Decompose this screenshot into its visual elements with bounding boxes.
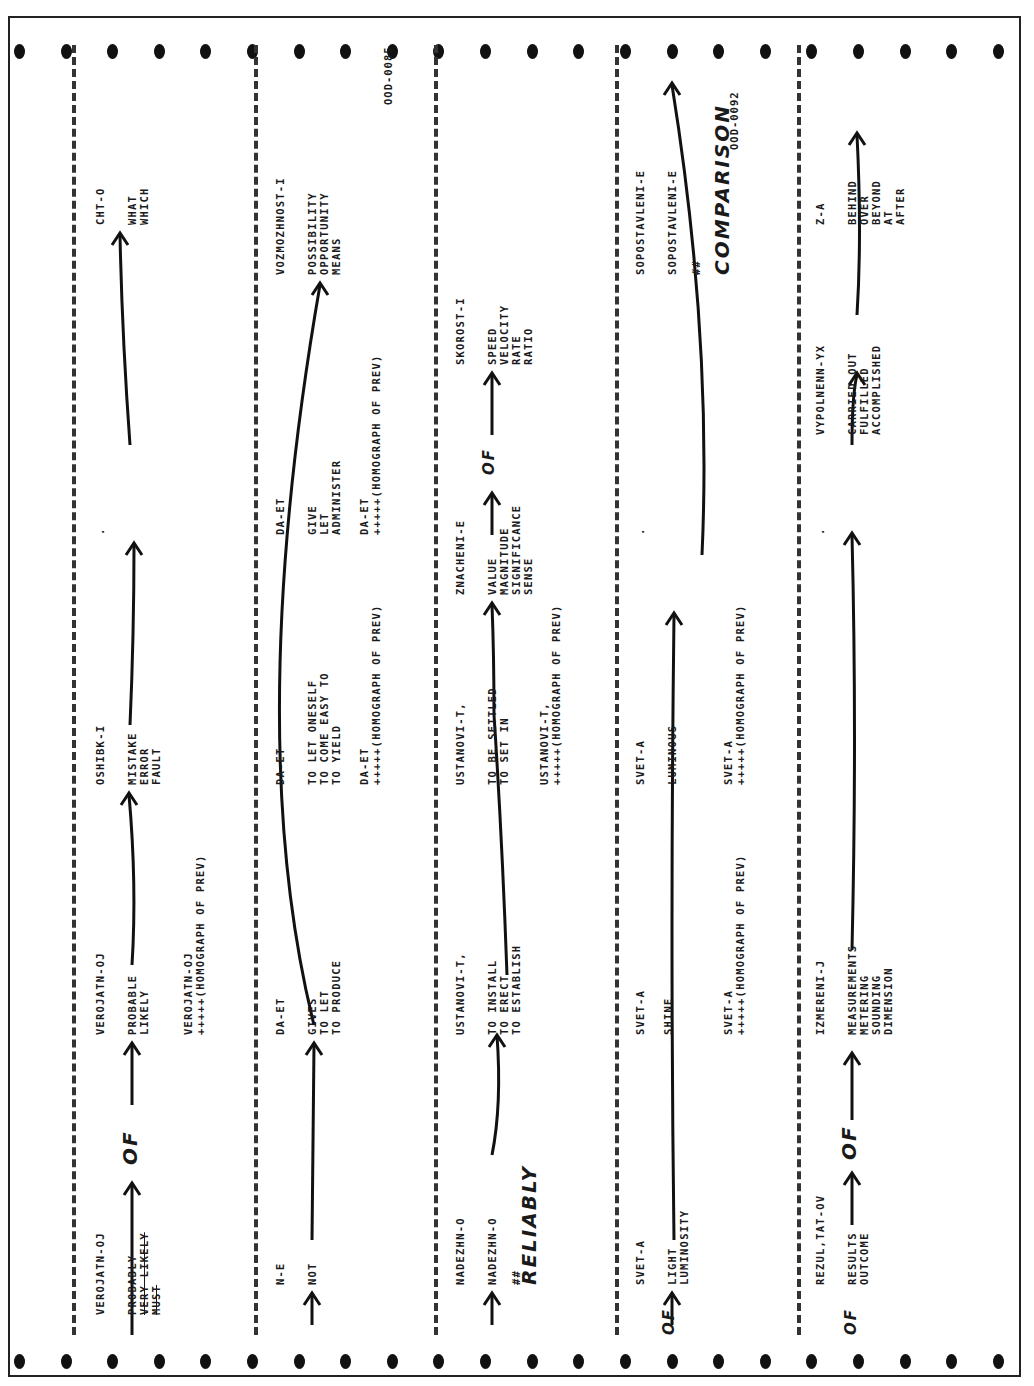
russian-stem: REZUL,TAT-OV xyxy=(814,1195,826,1285)
handwritten-annotation: OF xyxy=(660,1308,678,1335)
homograph-note: SVET-A +++++(HOMOGRAPH OF PREV) xyxy=(722,604,746,785)
russian-stem: VYPOLNENN-YX xyxy=(814,345,826,435)
english-glosses: GIVE LET ADMINISTER xyxy=(306,460,342,535)
handwritten-annotation: OF xyxy=(480,448,498,475)
english-glosses: PROBABLE LIKELY xyxy=(126,975,150,1035)
english-glosses: MISTAKE ERROR FAULT xyxy=(126,732,162,785)
russian-stem: SVET-A xyxy=(634,1240,646,1285)
homograph-note: DA-ET +++++(HOMOGRAPH OF PREV) xyxy=(358,354,382,535)
russian-stem: Z-A xyxy=(814,202,826,225)
russian-stem: NADEZHN-O xyxy=(454,1217,466,1285)
punctuation: . xyxy=(94,527,106,535)
english-glosses: PROBABLY VERY LIKELY MUST xyxy=(126,1232,162,1315)
russian-stem: OSHIBK-I xyxy=(94,725,106,785)
russian-stem: VOZMOZHNOST-I xyxy=(274,177,286,275)
russian-stem: N-E xyxy=(274,1262,286,1285)
handwritten-arrows xyxy=(62,45,972,1335)
english-glosses: TO BE SETTLED TO SET IN xyxy=(486,687,510,785)
english-glosses: RESULTS OUTCOME xyxy=(846,1232,870,1285)
homograph-note: SVET-A +++++(HOMOGRAPH OF PREV) xyxy=(722,854,746,1035)
english-glosses: MEASUREMENTS METERING SOUNDING DIMENSION xyxy=(846,945,894,1035)
russian-stem: VEROJATN-OJ xyxy=(94,952,106,1035)
russian-stem: SOPOSTAVLENI-E xyxy=(634,170,646,275)
punctuation: . xyxy=(814,527,826,535)
handwritten-annotation: RELIABLY xyxy=(517,1165,541,1285)
homograph-note: VEROJATN-OJ +++++(HOMOGRAPH OF PREV) xyxy=(182,854,206,1035)
english-glosses: SPEED VELOCITY RATE RATIO xyxy=(486,305,534,365)
russian-stem: DA-ET xyxy=(274,497,286,535)
russian-stem: IZMERENI-J xyxy=(814,960,826,1035)
russian-stem: DA-ET xyxy=(274,997,286,1035)
russian-stem: VEROJATN-OJ xyxy=(94,1232,106,1315)
russian-stem: USTANOVI-T, xyxy=(454,952,466,1035)
russian-stem: USTANOVI-T, xyxy=(454,702,466,785)
tractor-feed-holes-bottom xyxy=(14,1346,1004,1376)
rotated-printout: VEROJATN-OJ PROBABLY VERY LIKELY MUST OF… xyxy=(62,45,972,1335)
english-glosses: SHINE xyxy=(662,997,674,1035)
punctuation: . xyxy=(634,527,646,535)
english-glosses: NOT xyxy=(306,1262,318,1285)
document-code: OOD-0092 xyxy=(728,91,740,150)
russian-stem: SVET-A xyxy=(634,990,646,1035)
english-glosses: POSSIBILITY OPPORTUNITY MEANS xyxy=(306,192,342,275)
homograph-note: DA-ET +++++(HOMOGRAPH OF PREV) xyxy=(358,604,382,785)
document-code: OOD-0085 xyxy=(382,46,394,105)
english-glosses: WHAT WHICH xyxy=(126,187,150,225)
english-glosses: TO LET ONESELF TO COME EASY TO TO YIELD xyxy=(306,672,342,785)
english-glosses: SOPOSTAVLENI-E ## xyxy=(666,170,702,275)
english-glosses: LUMINOUS xyxy=(666,725,678,785)
english-glosses: LIGHT LUMINOSITY xyxy=(666,1210,690,1285)
homograph-note: USTANOVI-T, +++++(HOMOGRAPH OF PREV) xyxy=(538,604,562,785)
handwritten-annotation: OF xyxy=(118,1130,142,1165)
english-glosses: VALUE MAGNITUDE SIGNIFICANCE SENSE xyxy=(486,505,534,595)
russian-stem: DA-ET xyxy=(274,747,286,785)
russian-stem: SKOROST-I xyxy=(454,297,466,365)
english-glosses: GIVES TO LET TO PRODUCE xyxy=(306,960,342,1035)
english-glosses: BEHIND OVER BEYOND AT AFTER xyxy=(846,180,906,225)
russian-stem: CHT-O xyxy=(94,187,106,225)
russian-stem: SVET-A xyxy=(634,740,646,785)
russian-stem: ZNACHENI-E xyxy=(454,520,466,595)
english-glosses: TO INSTALL TO ERECT TO ESTABLISH xyxy=(486,945,522,1035)
handwritten-annotation: OF xyxy=(842,1308,860,1335)
english-glosses: CARRIED OUT FULFILLED ACCOMPLISHED xyxy=(846,345,882,435)
handwritten-annotation: OF xyxy=(837,1125,861,1160)
